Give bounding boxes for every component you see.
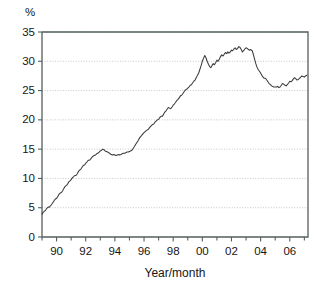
x-axis-ticks — [42, 237, 304, 242]
series-line — [42, 47, 307, 215]
data-series — [42, 47, 307, 215]
x-tick-label: 02 — [225, 245, 238, 257]
x-axis-tick-labels: 909294969800020406 — [50, 245, 296, 257]
x-tick-label: 04 — [254, 245, 267, 257]
x-tick-label: 98 — [167, 245, 180, 257]
y-tick-label: 35 — [22, 26, 35, 38]
y-tick-label: 5 — [29, 201, 35, 213]
y-axis-tick-labels: 05101520253035 — [22, 26, 35, 243]
x-axis-title: Year/month — [145, 266, 206, 280]
x-tick-label: 90 — [50, 245, 63, 257]
line-chart: 05101520253035 909294969800020406 % Year… — [0, 0, 325, 291]
y-tick-label: 10 — [22, 172, 35, 184]
x-tick-label: 06 — [283, 245, 296, 257]
y-tick-label: 15 — [22, 143, 35, 155]
grid-lines — [42, 32, 308, 208]
y-tick-label: 20 — [22, 113, 35, 125]
y-tick-label: 0 — [29, 231, 35, 243]
y-tick-label: 25 — [22, 84, 35, 96]
x-tick-label: 92 — [79, 245, 92, 257]
x-tick-label: 96 — [138, 245, 151, 257]
y-axis-unit-label: % — [25, 6, 35, 18]
x-tick-label: 94 — [108, 245, 121, 257]
y-tick-label: 30 — [22, 55, 35, 67]
chart-container: 05101520253035 909294969800020406 % Year… — [0, 0, 325, 291]
axis-lines — [42, 32, 308, 237]
x-tick-label: 00 — [196, 245, 209, 257]
